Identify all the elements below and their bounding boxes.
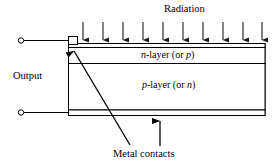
output-lead-bottom — [18, 110, 68, 115]
p-layer-text: -layer (or — [147, 79, 187, 90]
n-layer-close: ) — [191, 49, 194, 60]
top-metal-contact-strip — [69, 44, 266, 48]
metal-contacts-label: Metal contacts — [113, 148, 175, 159]
n-layer-label: n-layer (or p) — [141, 49, 194, 60]
top-left-contact-pad — [69, 37, 78, 45]
radiation-label: Radiation — [164, 3, 205, 14]
radiation-arrow-group — [83, 22, 262, 40]
output-label: Output — [13, 70, 42, 81]
bottom-metal-contact-strip — [69, 110, 266, 116]
photodetector-cross-section-diagram — [0, 0, 276, 166]
bottom-output-terminal[interactable] — [18, 110, 23, 115]
output-lead-top — [18, 38, 68, 43]
top-output-terminal[interactable] — [18, 38, 23, 43]
p-layer-label: p-layer (or n) — [142, 79, 195, 90]
p-layer-close: ) — [192, 79, 195, 90]
n-layer-text: -layer (or — [146, 49, 186, 60]
